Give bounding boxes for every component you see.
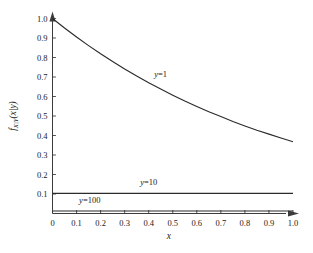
x-tick-label: 1.0 xyxy=(288,218,299,228)
y-tick-label: 0.5 xyxy=(37,111,48,121)
x-axis-title: x xyxy=(166,231,172,241)
y-tick-label: 0.9 xyxy=(37,33,48,43)
tick-marks-layer xyxy=(53,19,294,214)
x-tick-label: 0.1 xyxy=(71,218,82,228)
series-label-y10: y=10 xyxy=(139,177,157,187)
y-tick-label: 0.6 xyxy=(37,92,48,102)
conditional-density-line-chart: 00.10.20.30.40.50.60.70.80.91.0 0.10.20.… xyxy=(0,0,313,253)
y-tick-label: 0.3 xyxy=(37,150,48,160)
x-tick-label: 0.8 xyxy=(240,218,251,228)
y-tick-label: 0.8 xyxy=(37,53,48,63)
y-axis-tick-labels: 0.10.20.30.40.50.60.70.80.91.0 xyxy=(37,14,48,200)
series-label-y1: y=1 xyxy=(153,69,167,79)
x-tick-label: 0.6 xyxy=(191,218,202,228)
y-tick-label: 0.7 xyxy=(37,72,48,82)
y-tick-label: 0.1 xyxy=(37,189,48,199)
y-axis-title: fX|Y(x|y) xyxy=(8,101,19,131)
series-annotation-labels: y=1y=10y=100 xyxy=(78,69,167,205)
x-tick-label: 0.2 xyxy=(95,218,106,228)
x-tick-label: 0.7 xyxy=(216,218,227,228)
series-label-y100: y=100 xyxy=(78,195,100,205)
y-tick-label: 0.4 xyxy=(37,131,48,141)
x-axis-tick-labels: 00.10.20.30.40.50.60.70.80.91.0 xyxy=(50,218,298,228)
x-tick-label: 0.4 xyxy=(143,218,154,228)
y-tick-label: 0.2 xyxy=(37,170,48,180)
x-tick-label: 0.3 xyxy=(119,218,130,228)
chart-figure: 00.10.20.30.40.50.60.70.80.91.0 0.10.20.… xyxy=(0,0,313,253)
series-line-y1 xyxy=(53,19,294,142)
y-tick-label: 1.0 xyxy=(37,14,48,24)
axes-layer xyxy=(49,12,299,217)
x-tick-label: 0.5 xyxy=(167,218,178,228)
x-tick-label: 0 xyxy=(50,218,54,228)
data-series-layer xyxy=(53,19,294,211)
x-tick-label: 0.9 xyxy=(264,218,275,228)
